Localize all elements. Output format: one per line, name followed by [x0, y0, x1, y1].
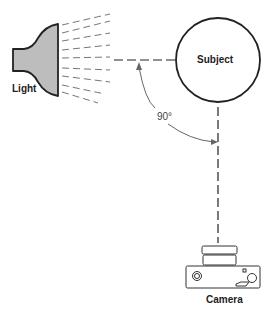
light-rays: [62, 14, 110, 103]
camera-icon: [186, 246, 260, 288]
camera-label: Camera: [206, 294, 243, 305]
light-label: Light: [12, 83, 36, 94]
diagram-canvas: [0, 0, 280, 309]
angle-label: 90°: [157, 111, 172, 122]
subject-label: Subject: [197, 54, 233, 65]
lighting-diagram: Light Subject 90° Camera: [0, 0, 280, 309]
